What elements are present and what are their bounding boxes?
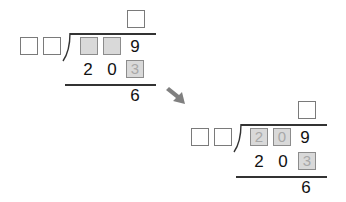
dividend-ones-digit: 9 <box>297 129 313 147</box>
product-tens-digit: 0 <box>104 61 120 79</box>
division-bracket <box>233 124 243 154</box>
divisor-blank-box-tens[interactable] <box>20 37 38 55</box>
dividend-tens-box[interactable]: 0 <box>273 128 291 146</box>
divisor-blank-box-tens[interactable] <box>191 128 209 146</box>
remainder-digit: 6 <box>127 87 143 105</box>
dividend-hundreds-box[interactable] <box>80 37 98 55</box>
quotient-blank-box[interactable] <box>127 10 145 28</box>
division-bar <box>241 124 327 126</box>
product-hundreds-digit: 2 <box>80 61 96 79</box>
quotient-blank-box[interactable] <box>298 101 316 119</box>
division-bracket <box>62 33 72 63</box>
division-bar <box>70 33 156 35</box>
arrow-down-right-icon <box>164 84 190 108</box>
remainder-digit: 6 <box>298 179 314 197</box>
product-hundreds-digit: 2 <box>251 153 267 171</box>
subtraction-line <box>65 84 156 86</box>
dividend-hundreds-box[interactable]: 2 <box>250 128 268 146</box>
divisor-blank-box-ones[interactable] <box>43 37 61 55</box>
subtraction-line <box>236 176 327 178</box>
product-ones-box[interactable]: 3 <box>126 60 144 78</box>
dividend-tens-box[interactable] <box>103 37 121 55</box>
divisor-blank-box-ones[interactable] <box>214 128 232 146</box>
dividend-ones-digit: 9 <box>127 38 143 56</box>
product-tens-digit: 0 <box>275 153 291 171</box>
product-ones-box[interactable]: 3 <box>298 152 316 170</box>
